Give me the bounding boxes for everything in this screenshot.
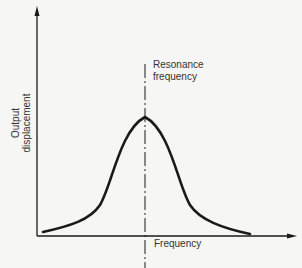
y-axis-label-line2: displacement [21,88,32,158]
x-axis-label: Frequency [154,238,201,250]
response-curve [43,117,250,234]
x-axis-arrow-icon [287,234,297,239]
resonance-label-line1: Resonance [153,59,204,71]
resonance-label-line2: frequency [153,71,204,83]
y-axis-arrow-icon [35,6,40,16]
y-axis-label-line1: Output [10,88,21,158]
resonance-frequency-label: Resonance frequency [153,59,204,83]
resonance-diagram [0,0,302,268]
y-axis-label: Output displacement [10,88,32,158]
